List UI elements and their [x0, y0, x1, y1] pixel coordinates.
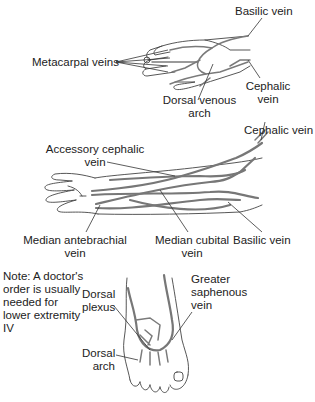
- note-line: Note: A doctor's: [3, 270, 83, 283]
- label-cephalic-vein-hand: Cephalic vein: [240, 80, 296, 106]
- label-median-cubital-vein: Median cubital vein: [148, 234, 236, 260]
- label-median-antebrachial-vein-line2: vein: [20, 247, 130, 260]
- note-lower-extremity: Note: A doctor's order is usually needed…: [3, 270, 83, 335]
- vein-diagram: Basilic vein Metacarpal veins Dorsal ven…: [0, 0, 315, 402]
- label-metacarpal-veins: Metacarpal veins: [32, 56, 119, 69]
- foot-illustration: [114, 275, 192, 393]
- label-dorsal-plexus-line2: plexus: [82, 301, 115, 314]
- label-cephalic-vein-hand-line2: vein: [240, 93, 296, 106]
- label-basilic-vein-forearm: Basilic vein: [233, 234, 291, 247]
- label-median-cubital-vein-line1: Median cubital: [148, 234, 236, 247]
- label-accessory-cephalic-vein-line1: Accessory cephalic: [40, 143, 150, 156]
- label-median-antebrachial-vein: Median antebrachial vein: [20, 234, 130, 260]
- label-dorsal-arch-line2: arch: [82, 360, 115, 373]
- label-cephalic-vein-hand-line1: Cephalic: [240, 80, 296, 93]
- note-line: IV: [3, 322, 83, 335]
- label-dorsal-plexus-line1: Dorsal: [82, 288, 115, 301]
- label-dorsal-arch: Dorsal arch: [82, 347, 115, 373]
- label-accessory-cephalic-vein: Accessory cephalic vein: [40, 143, 150, 169]
- label-accessory-cephalic-vein-line2: vein: [40, 156, 150, 169]
- label-cephalic-vein-forearm: Cephalic vein: [244, 124, 313, 137]
- label-basilic-vein-hand: Basilic vein: [235, 5, 293, 18]
- label-greater-saphenous-vein: Greater saphenous vein: [191, 273, 247, 312]
- label-dorsal-arch-line1: Dorsal: [82, 347, 115, 360]
- label-greater-saphenous-vein-line3: vein: [191, 299, 247, 312]
- label-median-cubital-vein-line2: vein: [148, 247, 236, 260]
- label-dorsal-venous-arch: Dorsal venous arch: [152, 94, 247, 120]
- note-line: lower extremity: [3, 309, 83, 322]
- forearm-illustration: [45, 122, 268, 232]
- note-line: order is usually: [3, 283, 83, 296]
- label-greater-saphenous-vein-line2: saphenous: [191, 286, 247, 299]
- label-dorsal-venous-arch-line2: arch: [152, 107, 247, 120]
- label-greater-saphenous-vein-line1: Greater: [191, 273, 247, 286]
- label-median-antebrachial-vein-line1: Median antebrachial: [20, 234, 130, 247]
- label-dorsal-venous-arch-line1: Dorsal venous: [152, 94, 247, 107]
- note-line: needed for: [3, 296, 83, 309]
- label-dorsal-plexus: Dorsal plexus: [82, 288, 115, 314]
